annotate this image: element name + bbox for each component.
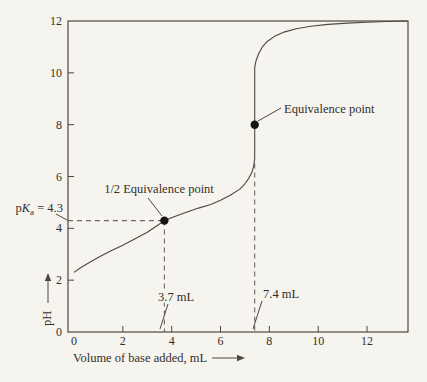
x-tick-label: 10 bbox=[312, 334, 324, 348]
y-axis-arrow-head bbox=[45, 273, 51, 281]
y-tick-label: 10 bbox=[50, 66, 62, 80]
plot-frame-layer bbox=[68, 21, 408, 332]
volume-half-label: 3.7 mL bbox=[158, 290, 194, 304]
plot-frame bbox=[68, 21, 408, 332]
y-axis-label-group: pH bbox=[40, 311, 54, 326]
x-axis-label: Volume of base added, mL bbox=[73, 351, 207, 365]
y-tick-label: 8 bbox=[56, 118, 62, 132]
y-tick-label: 2 bbox=[56, 273, 62, 287]
x-tick-label: 12 bbox=[361, 334, 373, 348]
titration-curve bbox=[74, 21, 407, 272]
volume-eq-label: 7.4 mL bbox=[263, 287, 299, 301]
pka-value: = 4.3 bbox=[34, 201, 63, 215]
volume-eq-pointer-line bbox=[253, 301, 262, 329]
pka-label: pKa = 4.3 bbox=[15, 201, 63, 217]
y-tick-label: 12 bbox=[50, 14, 62, 28]
titration-chart: 024681012024681012 Equivalence point 1/2… bbox=[0, 0, 427, 382]
x-tick-label: 2 bbox=[120, 334, 126, 348]
titration-figure: 024681012024681012 Equivalence point 1/2… bbox=[0, 0, 427, 382]
x-axis-arrow-head bbox=[237, 355, 245, 361]
half-equivalence-pointer-line bbox=[148, 198, 162, 216]
y-tick-label: 6 bbox=[56, 170, 62, 184]
y-tick-label: 0 bbox=[56, 325, 62, 339]
half-equivalence-point bbox=[160, 216, 168, 224]
y-tick-label: 4 bbox=[56, 221, 62, 235]
axis-ticks-layer: 024681012024681012 bbox=[50, 14, 373, 348]
volume-half-pointer-line bbox=[160, 304, 168, 329]
half-equivalence-point-label: 1/2 Equivalence point bbox=[104, 182, 214, 196]
markers-layer bbox=[160, 121, 259, 225]
x-tick-label: 6 bbox=[218, 334, 224, 348]
equivalence-point bbox=[251, 121, 259, 129]
x-tick-label: 4 bbox=[169, 334, 175, 348]
equivalence-point-label: Equivalence point bbox=[284, 102, 375, 116]
x-tick-label: 8 bbox=[266, 334, 272, 348]
equivalence-pointer-line bbox=[258, 108, 281, 121]
curve-layer bbox=[74, 21, 407, 272]
x-tick-label: 0 bbox=[71, 334, 77, 348]
y-axis-label: pH bbox=[40, 311, 54, 326]
